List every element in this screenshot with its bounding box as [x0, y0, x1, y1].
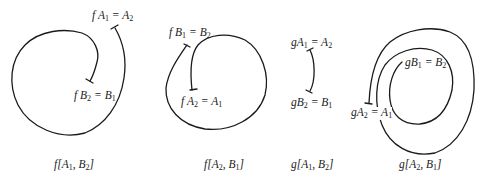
a-subscript: 1	[308, 163, 312, 172]
b-subscript: 1	[236, 163, 240, 172]
rhs-subscript: 2	[129, 14, 133, 23]
lhs-subscript: 2	[304, 101, 308, 110]
b-symbol: B	[78, 158, 85, 170]
fn-symbol: f	[74, 89, 77, 101]
path-g-a1-b2	[310, 50, 314, 91]
b-symbol: B	[318, 158, 325, 170]
rhs-symbol: B	[105, 89, 112, 101]
rhs-subscript: 2	[328, 41, 332, 50]
panel2-caption: f[A2, B1]	[204, 159, 244, 172]
fn-symbol: f	[169, 26, 172, 38]
panel3-start-label: gA1 = A2	[291, 37, 332, 50]
b-subscript: 2	[86, 163, 90, 172]
panel2-end-label: f A2 = A1	[181, 96, 222, 109]
lhs-symbol: A	[98, 9, 105, 21]
tick-end	[86, 79, 93, 83]
curves-canvas	[0, 0, 478, 183]
tick-end	[190, 89, 197, 90]
b-subscript: 2	[325, 163, 329, 172]
panel4-end-label: gA2 = A1	[351, 107, 392, 120]
fn-symbol: f	[181, 95, 184, 107]
fn-symbol: f	[54, 158, 57, 170]
panel1-end-label: f B2 = B1	[74, 90, 116, 103]
rhs-subscript: 1	[218, 100, 222, 109]
fn-symbol: f	[92, 9, 95, 21]
lhs-subscript: 2	[194, 100, 198, 109]
fn-symbol: g	[399, 158, 405, 170]
lhs-subscript: 1	[182, 31, 186, 40]
fn-symbol: f	[204, 158, 207, 170]
lhs-subscript: 2	[364, 111, 368, 120]
tick-end	[306, 90, 312, 93]
lhs-subscript: 1	[105, 14, 109, 23]
a-symbol: A	[212, 158, 219, 170]
lhs-subscript: 1	[418, 61, 422, 70]
rhs-subscript: 2	[442, 61, 446, 70]
path-f-a1-b2	[12, 28, 125, 135]
a-subscript: 2	[219, 163, 223, 172]
tick-start	[365, 103, 372, 104]
lhs-symbol: A	[187, 95, 194, 107]
b-subscript: 1	[433, 163, 437, 172]
panel1-start-label: f A1 = A2	[92, 10, 133, 23]
lhs-subscript: 1	[304, 41, 308, 50]
lhs-symbol: A	[357, 106, 364, 118]
fn-symbol: g	[291, 158, 297, 170]
panel1-caption: f[A1, B2]	[54, 159, 94, 172]
rhs-subscript: 2	[207, 31, 211, 40]
panel3-caption: g[A1, B2]	[291, 159, 334, 172]
rhs-subscript: 1	[328, 101, 332, 110]
panel4-caption: g[A2, B1]	[399, 159, 442, 172]
a-symbol: A	[62, 158, 69, 170]
panel2-start-label: f B1 = B2	[169, 27, 211, 40]
lhs-symbol: B	[297, 96, 304, 108]
rhs-subscript: 1	[388, 111, 392, 120]
lhs-subscript: 2	[87, 94, 91, 103]
panel3-end-label: gB2 = B1	[291, 97, 332, 110]
panel4-start-label: gB1 = B2	[405, 57, 446, 70]
rhs-subscript: 1	[112, 94, 116, 103]
rhs-symbol: B	[200, 26, 207, 38]
lhs-symbol: A	[297, 36, 304, 48]
b-symbol: B	[228, 158, 235, 170]
b-symbol: B	[426, 158, 433, 170]
lhs-symbol: B	[411, 56, 418, 68]
a-subscript: 1	[69, 163, 73, 172]
path-f-a2-b1	[166, 35, 267, 129]
path-g-a2-b1	[369, 29, 474, 154]
a-subscript: 2	[416, 163, 420, 172]
